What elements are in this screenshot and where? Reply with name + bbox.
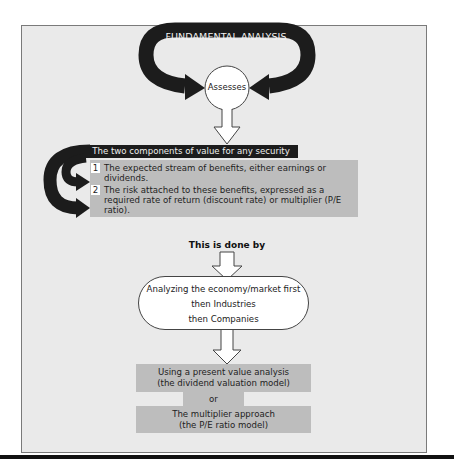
item-text: The risk attached to these benefits, exp… <box>104 185 354 215</box>
fundamental-analysis-title: FUNDAMENTAL ANALYSIS <box>160 31 292 42</box>
method-present-value: Using a present value analysis (the divi… <box>136 364 311 392</box>
arrowhead-item-1 <box>76 173 90 191</box>
process-line-3: then Companies <box>139 314 308 324</box>
method-line-2: (the P/E ratio model) <box>136 420 311 431</box>
method-line-1: The multiplier approach <box>136 409 311 420</box>
assesses-label: Assesses <box>205 82 249 92</box>
arrowhead-right <box>249 74 269 100</box>
method-multiplier: The multiplier approach (the P/E ratio m… <box>136 406 311 433</box>
arrowhead-item-2 <box>76 198 90 218</box>
process-bubble: Analyzing the economy/market first then … <box>138 276 309 330</box>
method-line-1: Using a present value analysis <box>136 367 311 378</box>
bottom-border-band <box>0 455 454 459</box>
down-arrow-3 <box>213 329 241 364</box>
item-number: 1 <box>91 163 100 173</box>
connector-label: This is done by <box>180 240 274 250</box>
arrowhead-left <box>185 74 205 100</box>
or-separator: or <box>183 392 244 406</box>
process-line-2: then Industries <box>139 299 308 309</box>
item-text: The expected stream of benefits, either … <box>104 163 354 183</box>
method-line-2: (the dividend valuation model) <box>136 378 311 389</box>
components-box: 1 The expected stream of benefits, eithe… <box>90 160 358 217</box>
item-number: 2 <box>91 185 100 195</box>
process-line-1: Analyzing the economy/market first <box>139 284 308 294</box>
down-arrow-1 <box>214 109 240 144</box>
components-header: The two components of value for any secu… <box>84 145 298 158</box>
